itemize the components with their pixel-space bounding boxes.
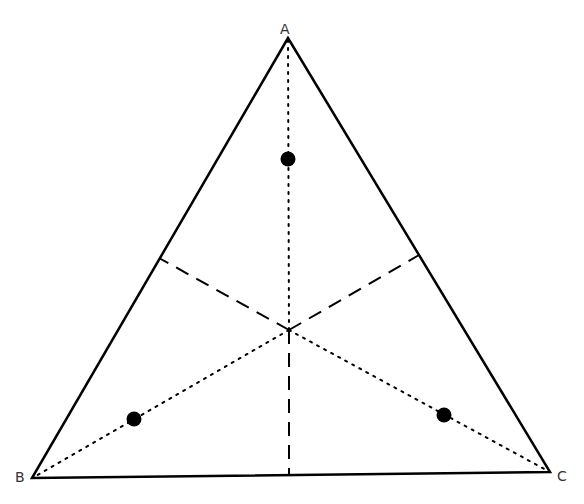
- triangle-outline: [32, 38, 550, 478]
- dotted-line-to-c: [289, 330, 548, 471]
- dashed-line-to-ab-midpoint: [159, 258, 289, 330]
- dashed-line-to-ac-midpoint: [289, 255, 419, 330]
- vertex-label-b: B: [15, 469, 25, 485]
- triangle-diagram: A B C: [0, 0, 584, 504]
- point-near-b: [127, 412, 142, 427]
- vertex-label-c: C: [557, 468, 567, 484]
- point-near-c: [437, 408, 452, 423]
- dotted-line-to-a: [288, 40, 289, 330]
- vertex-label-a: A: [280, 21, 290, 37]
- dotted-line-to-b: [34, 330, 289, 477]
- point-near-a: [281, 152, 296, 167]
